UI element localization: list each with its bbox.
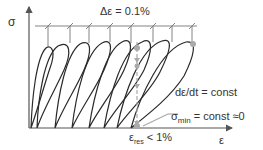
hysteresis-loops	[31, 40, 193, 128]
strain-increment-label: Δε = 0.1%	[100, 5, 150, 17]
x-axis-label: ε	[219, 134, 224, 146]
strain-increment-dimension	[35, 23, 197, 46]
y-axis-label: σ	[8, 15, 16, 29]
sigma-min-label: σmin = const ≈0	[171, 110, 245, 125]
residual-strain-label: εres < 1%	[129, 131, 172, 145]
loop-7	[117, 40, 169, 128]
strain-rate-label: dε/dt = const	[175, 86, 237, 98]
loop-3	[55, 43, 90, 128]
hysteresis-diagram: σ ε Δε = 0.1%	[0, 0, 263, 150]
